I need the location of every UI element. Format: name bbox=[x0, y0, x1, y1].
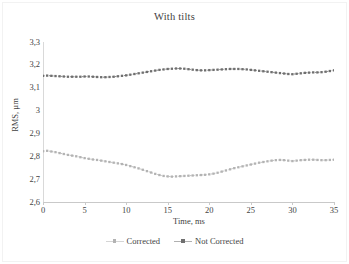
x-axis-tick-mark bbox=[168, 202, 169, 205]
x-axis-tick-mark bbox=[251, 202, 252, 205]
y-axis-tick-labels: 2,62,72,82,933,13,23,3 bbox=[2, 0, 40, 264]
chart-container: With tilts 2,62,72,82,933,13,23,3 051015… bbox=[0, 0, 349, 264]
x-axis-tick-mark bbox=[126, 202, 127, 205]
series-corrected bbox=[43, 150, 334, 178]
chart-legend: CorrectedNot Corrected bbox=[0, 236, 349, 246]
x-axis-tick-label: 35 bbox=[322, 205, 346, 215]
x-axis-tick-mark bbox=[85, 202, 86, 205]
chart-title: With tilts bbox=[0, 11, 349, 22]
y-axis-tick-label: 2,8 bbox=[6, 152, 40, 161]
x-axis-tick-label: 5 bbox=[73, 205, 97, 215]
y-axis-tick-label: 3,2 bbox=[6, 60, 40, 69]
plot-area bbox=[43, 42, 334, 202]
legend-entry-not-corrected[interactable]: Not Corrected bbox=[174, 236, 243, 246]
x-axis-tick-label: 10 bbox=[114, 205, 138, 215]
x-axis-tick-label: 15 bbox=[156, 205, 180, 215]
x-axis-label: Time, ms bbox=[43, 216, 335, 226]
legend-entry-corrected[interactable]: Corrected bbox=[106, 236, 161, 246]
x-axis-tick-mark bbox=[334, 202, 335, 205]
y-axis-tick-label: 2,7 bbox=[6, 175, 40, 184]
x-axis-line bbox=[43, 202, 335, 203]
legend-label: Corrected bbox=[127, 236, 161, 246]
x-axis-tick-mark bbox=[292, 202, 293, 205]
series-canvas bbox=[43, 42, 334, 202]
legend-marker-icon bbox=[106, 238, 124, 245]
legend-marker-icon bbox=[174, 238, 192, 245]
x-axis-tick-mark bbox=[209, 202, 210, 205]
x-axis-tick-label: 0 bbox=[31, 205, 55, 215]
x-axis-tick-label: 25 bbox=[239, 205, 263, 215]
legend-label: Not Corrected bbox=[195, 236, 243, 246]
x-axis-tick-label: 20 bbox=[197, 205, 221, 215]
x-axis-tick-label: 30 bbox=[280, 205, 304, 215]
x-axis-tick-mark bbox=[43, 202, 44, 205]
y-axis-tick-label: 3,3 bbox=[6, 38, 40, 47]
y-axis-label: RMS, µm bbox=[10, 87, 20, 143]
series-not-corrected bbox=[43, 67, 334, 78]
